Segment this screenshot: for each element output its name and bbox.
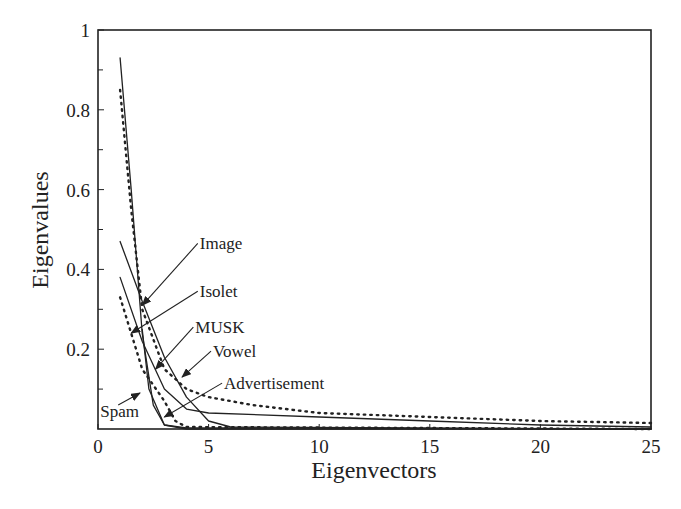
axis-ticks: 05101520250.20.40.60.81: [66, 20, 660, 457]
annotation-arrow-vowel: [182, 351, 211, 377]
annotation-label-isolet: Isolet: [200, 282, 238, 301]
plot-border: [98, 30, 651, 429]
y-tick-label: 0.6: [66, 180, 90, 201]
y-tick-label: 0.4: [66, 259, 90, 280]
annotation-label-spam: Spam: [100, 402, 139, 421]
x-tick-label: 5: [204, 436, 214, 457]
plot-frame: [98, 30, 651, 429]
series-advertisement-line: [120, 297, 651, 429]
annotation-label-image: Image: [200, 234, 242, 253]
x-tick-label: 15: [420, 436, 439, 457]
annotation-layer: ImageIsoletMUSKVowelAdvertisementSpam: [100, 234, 324, 421]
annotation-label-musk: MUSK: [195, 318, 245, 337]
annotation-label-vowel: Vowel: [213, 342, 256, 361]
x-tick-label: 0: [93, 436, 103, 457]
series-isolet-line: [120, 90, 651, 423]
y-tick-label: 0.8: [66, 100, 90, 121]
annotation-label-advertisement: Advertisement: [224, 374, 324, 393]
annotation-arrow-advertisement: [164, 383, 222, 417]
y-tick-label: 0.2: [66, 339, 90, 360]
x-tick-label: 25: [642, 436, 661, 457]
x-tick-label: 20: [531, 436, 550, 457]
y-axis-title: Eigenvalues: [27, 171, 53, 288]
y-tick-label: 1: [81, 20, 91, 41]
eigenvalue-line-chart: ImageIsoletMUSKVowelAdvertisementSpam 05…: [0, 0, 681, 509]
x-axis-title: Eigenvectors: [311, 457, 436, 483]
x-tick-label: 10: [310, 436, 329, 457]
